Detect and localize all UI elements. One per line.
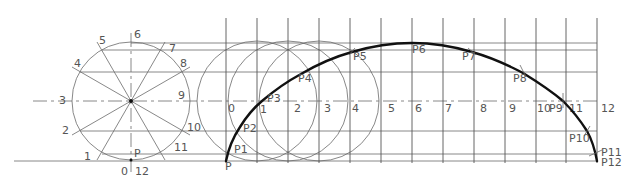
- bottom-label-0: 0: [121, 165, 128, 178]
- curve-label-p: P: [225, 160, 232, 173]
- curve-label-p5: P5: [353, 50, 367, 63]
- division-label-1: 1: [84, 150, 91, 163]
- centre-label-7: 7: [445, 102, 452, 115]
- horizontal-level-lines: [80, 43, 597, 154]
- curve-label-p12: P12: [601, 156, 622, 169]
- division-label-4: 4: [74, 57, 81, 70]
- curve-label-p1: P1: [234, 143, 248, 156]
- curve-label-p3: P3: [267, 92, 281, 105]
- centre-label-4: 4: [352, 102, 359, 115]
- division-label-2: 2: [62, 124, 69, 137]
- centre-label-8: 8: [480, 102, 487, 115]
- curve-label-p4: P4: [298, 72, 312, 85]
- cycloid-diagram: 1 2 3 4 5 6 7 8 9 10 11 P 0 12 0: [0, 0, 629, 192]
- contact-point-label: P: [134, 147, 141, 160]
- centre-label-1: 1: [260, 103, 267, 116]
- centre-label-2: 2: [294, 102, 301, 115]
- curve-label-p9: P9: [549, 102, 563, 115]
- circle-center-dot: [129, 99, 133, 103]
- locus-grid-verticals: [226, 18, 597, 163]
- division-label-5: 5: [99, 34, 106, 47]
- division-label-11: 11: [174, 141, 188, 154]
- centre-label-0: 0: [228, 102, 235, 115]
- curve-label-p10: P10: [569, 132, 590, 145]
- division-label-3: 3: [59, 94, 66, 107]
- centre-label-5: 5: [388, 102, 395, 115]
- curve-label-p8: P8: [513, 72, 527, 85]
- division-label-7: 7: [169, 42, 176, 55]
- division-label-8: 8: [180, 57, 187, 70]
- curve-label-p7: P7: [462, 50, 476, 63]
- centre-label-9: 9: [509, 102, 516, 115]
- contact-point-dot: [130, 159, 133, 162]
- curve-point-labels: P P1 P2 P3 P4 P5 P6 P7 P8 P9 P10 P11 P12: [225, 43, 622, 173]
- bottom-label-12: 12: [135, 165, 149, 178]
- curve-label-p6: P6: [412, 43, 426, 56]
- division-label-6: 6: [134, 28, 141, 41]
- centre-label-12: 12: [601, 102, 615, 115]
- division-label-10: 10: [187, 121, 201, 134]
- division-label-9: 9: [178, 89, 185, 102]
- centre-label-3: 3: [324, 102, 331, 115]
- centre-label-6: 6: [415, 102, 422, 115]
- curve-label-p2: P2: [243, 122, 257, 135]
